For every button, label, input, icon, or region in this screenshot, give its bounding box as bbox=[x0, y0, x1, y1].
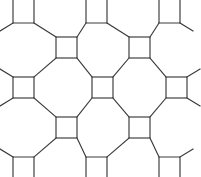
tiling-canvas bbox=[0, 0, 201, 177]
tiling-figure bbox=[0, 0, 201, 177]
canvas-background bbox=[0, 0, 201, 177]
